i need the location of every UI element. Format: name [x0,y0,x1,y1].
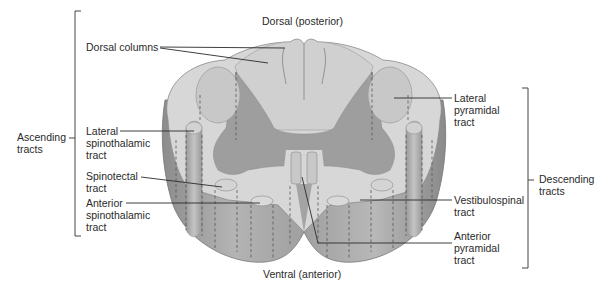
dorsal-label: Dorsal (posterior) [262,15,343,27]
lateral-spinothalamic-label: Lateral spinothalamic tract [86,125,150,161]
dorsal-columns-label: Dorsal columns [86,41,158,53]
ventral-label: Ventral (anterior) [263,268,341,280]
vestibulospinal-label: Vestibulospinal tract [454,194,524,218]
ascending-tracts-label: Ascending tracts [17,131,66,155]
anterior-spinothalamic-label: Anterior spinothalamic tract [86,197,150,233]
lateral-pyramidal-label: Lateral pyramidal tract [454,92,500,128]
spinotectal-label: Spinotectal tract [86,170,138,194]
descending-tracts-label: Descending tracts [539,173,594,197]
descending-bracket [522,88,534,268]
ascending-bracket [69,11,81,236]
anterior-pyramidal-label: Anterior pyramidal tract [454,230,500,266]
